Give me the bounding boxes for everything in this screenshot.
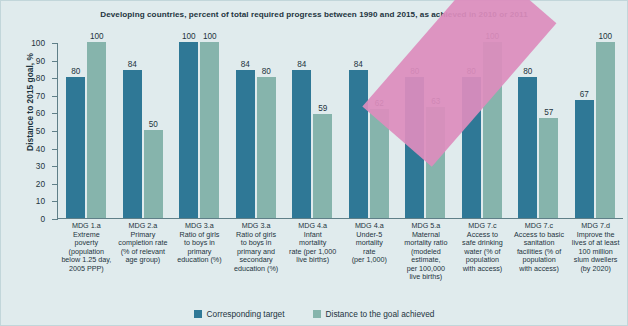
- bar-value-label: 100: [90, 32, 104, 41]
- chart-figure: Developing countries, percent of total r…: [0, 0, 628, 326]
- y-axis-tick: 40: [52, 149, 57, 150]
- bar-value-label: 80: [467, 67, 476, 76]
- category-label-line: 2005 PPP): [59, 265, 114, 274]
- y-axis-tick-label: 80: [36, 73, 45, 83]
- bar-target[interactable]: 80: [518, 77, 537, 218]
- bar-target[interactable]: 84: [236, 70, 255, 218]
- legend-label: Corresponding target: [207, 309, 285, 319]
- bar-achieved[interactable]: 80: [257, 77, 276, 218]
- bar-value-label: 63: [431, 97, 440, 106]
- category-label-line: with access): [455, 265, 510, 274]
- y-axis-tick: 10: [52, 201, 57, 202]
- category-label-line: education (%): [172, 256, 227, 265]
- y-axis-tick: 80: [52, 78, 57, 79]
- bar-group: 8450: [115, 43, 172, 218]
- bar-achieved[interactable]: 100: [87, 42, 106, 218]
- x-axis-category-label: MDG 7.dImprove thelives of at least100 m…: [567, 222, 624, 282]
- bar-achieved[interactable]: 100: [483, 42, 502, 218]
- bar-target[interactable]: 84: [292, 70, 311, 218]
- bar-value-label: 100: [485, 32, 499, 41]
- bar-value-label: 100: [203, 32, 217, 41]
- bar-value-label: 84: [354, 60, 363, 69]
- legend-item[interactable]: Distance to the goal achieved: [313, 309, 435, 319]
- y-axis-tick-label: 10: [36, 196, 45, 206]
- bar-target[interactable]: 80: [462, 77, 481, 218]
- x-axis-category-label: MDG 3.aRatio of girlsto boys inprimary a…: [228, 222, 285, 282]
- bar-value-label: 57: [544, 108, 553, 117]
- chart-legend: Corresponding targetDistance to the goal…: [1, 309, 627, 319]
- bar-value-label: 67: [580, 90, 589, 99]
- bar-group: 8459: [284, 43, 341, 218]
- bar-group: 67100: [567, 43, 624, 218]
- x-axis-category-label: MDG 7.cAccess tosafe drinkingwater (% of…: [454, 222, 511, 282]
- legend-item[interactable]: Corresponding target: [194, 309, 285, 319]
- bar-achieved[interactable]: 100: [200, 42, 219, 218]
- y-axis-tick-label: 40: [36, 144, 45, 154]
- bar-value-label: 80: [410, 67, 419, 76]
- y-axis-tick-label: 50: [36, 126, 45, 136]
- bar-value-label: 59: [318, 104, 327, 113]
- bar-achieved[interactable]: 57: [539, 118, 558, 218]
- x-axis-category-label: MDG 1.aExtremepoverty(populationbelow 1.…: [58, 222, 115, 282]
- y-axis-tick: 30: [52, 166, 57, 167]
- bar-group: 100100: [171, 43, 228, 218]
- bar-target[interactable]: 80: [66, 77, 85, 218]
- bar-value-label: 100: [182, 32, 196, 41]
- bar-group: 8057: [510, 43, 567, 218]
- x-axis-category-label: MDG 7.cAccess to basicsanitationfaciliti…: [511, 222, 568, 282]
- category-label-line: age group): [116, 256, 171, 265]
- x-axis-category-label: MDG 4.aInfantmortalityrate (per 1,000liv…: [284, 222, 341, 282]
- bar-target[interactable]: 84: [123, 70, 142, 218]
- bar-value-label: 80: [71, 67, 80, 76]
- y-axis-tick-label: 20: [36, 179, 45, 189]
- bar-value-label: 84: [297, 60, 306, 69]
- legend-label: Distance to the goal achieved: [326, 309, 435, 319]
- x-axis-line: [57, 218, 623, 219]
- bar-target[interactable]: 67: [575, 100, 594, 218]
- y-axis-label: Distance to 2015 goal, %: [25, 27, 35, 177]
- category-label-line: (by 2020): [568, 265, 623, 274]
- bar-target[interactable]: 100: [179, 42, 198, 218]
- x-axis-category-label: MDG 5.aMaternalmortality ratio(modeledes…: [398, 222, 455, 282]
- bar-target[interactable]: 84: [349, 70, 368, 218]
- bar-achieved[interactable]: 100: [596, 42, 615, 218]
- bar-target[interactable]: 80: [405, 77, 424, 218]
- bar-value-label: 80: [262, 67, 271, 76]
- y-axis-tick-label: 70: [36, 91, 45, 101]
- y-axis-tick: 20: [52, 184, 57, 185]
- bar-value-label: 50: [149, 120, 158, 129]
- bar-achieved[interactable]: 50: [144, 130, 163, 218]
- bar-value-label: 84: [128, 60, 137, 69]
- category-label-line: live births): [285, 256, 340, 265]
- y-axis-tick: 90: [52, 61, 57, 62]
- chart-title: Developing countries, percent of total r…: [1, 10, 627, 19]
- bar-group: 8462: [341, 43, 398, 218]
- category-label-line: (per 1,000): [342, 256, 397, 265]
- x-axis-category-labels: MDG 1.aExtremepoverty(populationbelow 1.…: [58, 222, 624, 282]
- category-label-line: with access): [512, 265, 567, 274]
- y-axis-tick: 70: [52, 96, 57, 97]
- y-axis-tick-label: 90: [36, 56, 45, 66]
- y-axis-tick: 60: [52, 113, 57, 114]
- bar-group: 80100: [454, 43, 511, 218]
- y-axis-tick: 50: [52, 131, 57, 132]
- x-axis-category-label: MDG 4.aUnder-5mortalityrate(per 1,000): [341, 222, 398, 282]
- legend-swatch-target: [194, 310, 202, 318]
- y-axis-tick-label: 0: [40, 214, 45, 224]
- bar-achieved[interactable]: 62: [370, 109, 389, 218]
- bar-value-label: 100: [598, 32, 612, 41]
- bar-achieved[interactable]: 59: [313, 114, 332, 218]
- y-axis-tick-label: 60: [36, 108, 45, 118]
- bar-value-label: 84: [241, 60, 250, 69]
- bar-group: 80100: [58, 43, 115, 218]
- x-axis-category-label: MDG 3.aRatio of girlsto boys inprimaryed…: [171, 222, 228, 282]
- y-axis-tick-label: 30: [36, 161, 45, 171]
- x-axis-category-label: MDG 2.aPrimarycompletion rate(% of relev…: [115, 222, 172, 282]
- bar-achieved[interactable]: 63: [426, 107, 445, 218]
- y-axis-tick: 100: [52, 43, 57, 44]
- bar-group: 8063: [397, 43, 454, 218]
- bar-groups: 8010084501001008480845984628063801008057…: [58, 43, 623, 218]
- category-label-line: education (%): [229, 265, 284, 274]
- y-axis-tick: 0: [52, 219, 57, 220]
- bar-value-label: 80: [523, 67, 532, 76]
